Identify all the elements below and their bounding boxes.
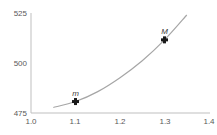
svg-text:1.0: 1.0: [25, 117, 37, 126]
chart: 525 500 475 1.0 1.1 1.2 1.3 1.4 mM: [0, 0, 217, 135]
plus-marker-icon: [72, 98, 79, 105]
svg-text:1.2: 1.2: [114, 117, 126, 126]
point-label: M: [161, 27, 168, 36]
point-label: m: [72, 89, 79, 98]
svg-text:500: 500: [14, 59, 28, 68]
svg-text:1.3: 1.3: [159, 117, 171, 126]
svg-text:1.1: 1.1: [69, 117, 81, 126]
svg-text:525: 525: [14, 9, 28, 18]
svg-text:1.4: 1.4: [203, 117, 215, 126]
x-tick-labels: 1.0 1.1 1.2 1.3 1.4: [25, 117, 215, 126]
y-tick-labels: 525 500 475: [14, 9, 28, 118]
point-markers: mM: [72, 27, 168, 105]
